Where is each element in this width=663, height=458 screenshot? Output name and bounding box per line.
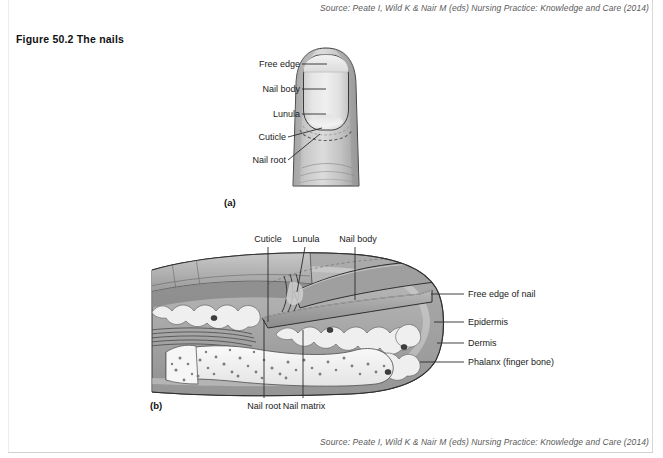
finger-body [293,48,359,186]
panel-b-caption: (b) [150,400,162,411]
label-nail-matrix-b: Nail matrix [264,401,344,412]
panel-a-finger-illustration [0,0,663,458]
panel-b-leader-lines-right [420,294,464,362]
label-lunula-a: Lunula [200,109,300,120]
figure-title: Figure 50.2 The nails [16,33,124,45]
label-nail-body-a: Nail body [200,84,300,95]
source-citation-top: Source: Peate I, Wild K & Nair M (eds) N… [320,3,649,13]
knuckle-creases [299,164,357,184]
epidermal-cells-right [276,324,421,380]
label-cuticle-a: Cuticle [186,132,286,143]
source-citation-bottom: Source: Peate I, Wild K & Nair M (eds) N… [320,437,649,447]
cuticle-arc [300,126,352,141]
page-border-bottom [8,452,653,453]
panel-b-leader-lines-top [268,247,355,322]
page-border-left [8,0,9,452]
label-free-edge-of-nail-b: Free edge of nail [468,289,536,300]
label-nail-root-a: Nail root [186,155,286,166]
panel-a-caption: (a) [224,197,236,208]
label-phalanx-b: Phalanx (finger bone) [468,357,554,368]
cuticle-fold [282,274,299,312]
nail-body-slab [294,262,437,308]
epidermal-cells-left [152,305,260,331]
label-free-edge-a: Free edge [200,59,300,70]
label-dermis-b: Dermis [468,338,497,349]
nail-plate-b [262,290,432,328]
figure-page: Source: Peate I, Wild K & Nair M (eds) N… [0,0,663,458]
label-epidermis-b: Epidermis [468,317,508,328]
finger-cross-section [150,252,444,396]
cell-nuclei [211,315,407,374]
nail-plate [304,55,349,130]
panel-b-cross-section-illustration [0,0,663,458]
panel-b-leader-lines-bottom [264,320,303,398]
phalanx-bone [166,345,393,386]
page-border-right [652,0,653,452]
label-nail-body-b: Nail body [318,234,398,245]
